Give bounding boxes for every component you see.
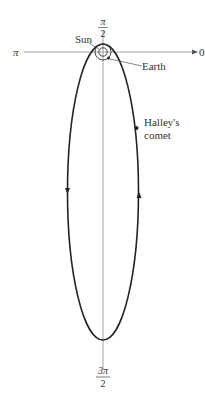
earth-icon bbox=[107, 57, 110, 60]
label-earth: Earth bbox=[142, 60, 166, 72]
axis-arrow-right-icon bbox=[192, 50, 198, 55]
comet-dot-icon bbox=[135, 126, 139, 130]
halley-orbit-diagram: π 0 π 2 3π 2 Sun Earth Halley's comet bbox=[0, 0, 205, 394]
label-comet-line1: Halley's bbox=[144, 116, 180, 128]
orbit-arrow-down-icon bbox=[65, 188, 70, 194]
label-pi: π bbox=[13, 46, 19, 58]
label-sun: Sun bbox=[75, 33, 93, 45]
label-pi-over-2-numerator: π bbox=[100, 16, 106, 27]
label-pi-over-2-denominator: 2 bbox=[101, 28, 106, 39]
label-3pi-over-2-numerator: 3π bbox=[97, 365, 109, 376]
orbit-arrow-up-icon bbox=[137, 192, 142, 198]
label-3pi-over-2-denominator: 2 bbox=[101, 378, 106, 389]
label-zero: 0 bbox=[199, 46, 205, 58]
label-comet-line2: comet bbox=[144, 129, 171, 141]
earth-leader-line bbox=[110, 59, 142, 66]
